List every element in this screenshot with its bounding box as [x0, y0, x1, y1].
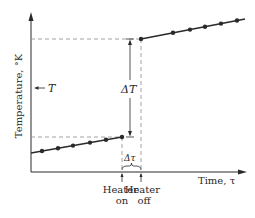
heater-on-arrow-icon: [121, 173, 124, 177]
data-point: [139, 37, 143, 41]
delta-tau-brace: [122, 163, 141, 170]
arrow-down-icon: [128, 131, 132, 137]
data-point: [203, 25, 207, 29]
arrow-left-icon: [34, 86, 39, 89]
t-marker: [34, 86, 45, 89]
t-marker-label: T: [48, 82, 57, 95]
x-axis-arrow-icon: [238, 170, 247, 175]
axes: [29, 12, 248, 175]
heater-off-line2: off: [137, 195, 151, 206]
heater-off-arrow-icon: [140, 173, 143, 177]
data-point: [171, 31, 175, 35]
heater-off-label: Heater off: [125, 184, 164, 206]
upper-segment: [139, 18, 245, 41]
lower-segment: [31, 135, 124, 153]
arrow-up-icon: [128, 40, 132, 46]
x-axis-label: Time, τ: [198, 175, 236, 186]
heater-on-line2: on: [116, 195, 129, 206]
data-point: [40, 149, 44, 153]
data-point: [56, 146, 60, 150]
heater-off-line1: Heater: [125, 184, 161, 195]
data-point: [71, 143, 75, 147]
temperature-time-diagram: ΔT Δτ Heater on Heater off Time, τ Tempe…: [0, 0, 255, 218]
data-point: [88, 140, 92, 144]
delta-t-label: ΔT: [120, 83, 138, 96]
delta-tau-label: Δτ: [123, 153, 136, 163]
y-axis-arrow-icon: [29, 12, 34, 21]
data-point: [219, 21, 223, 25]
data-point: [235, 18, 239, 22]
data-point: [120, 135, 124, 139]
data-point: [104, 138, 108, 142]
y-axis-label: Temperature, °K: [13, 53, 24, 138]
heater-markers: [121, 173, 143, 182]
data-point: [188, 27, 192, 31]
